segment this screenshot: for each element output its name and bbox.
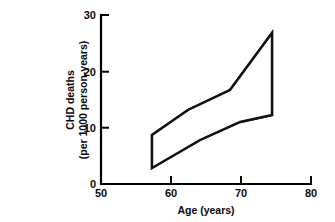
x-tick-label-50: 50: [95, 187, 107, 199]
x-tick-label-70: 70: [235, 187, 247, 199]
y-axis-title-line1: CHD deaths: [64, 70, 76, 130]
x-axis-title: Age (years): [177, 204, 234, 216]
band-outline-shape: [152, 33, 272, 168]
y-axis-ticks: [101, 15, 109, 184]
y-tick-label-30: 30: [84, 9, 96, 21]
x-tick-label-60: 60: [165, 187, 177, 199]
chd-risk-band: [145, 25, 285, 180]
y-axis-title-line2: (per 1000 person-years): [77, 41, 89, 159]
chart-canvas: 30 20 10 0 50 60 70 80 Age (years) CHD d…: [0, 0, 335, 222]
x-tick-label-80: 80: [305, 187, 317, 199]
x-axis-ticks: [101, 176, 311, 184]
chd-deaths-by-age-figure: 30 20 10 0 50 60 70 80 Age (years) CHD d…: [0, 0, 335, 222]
